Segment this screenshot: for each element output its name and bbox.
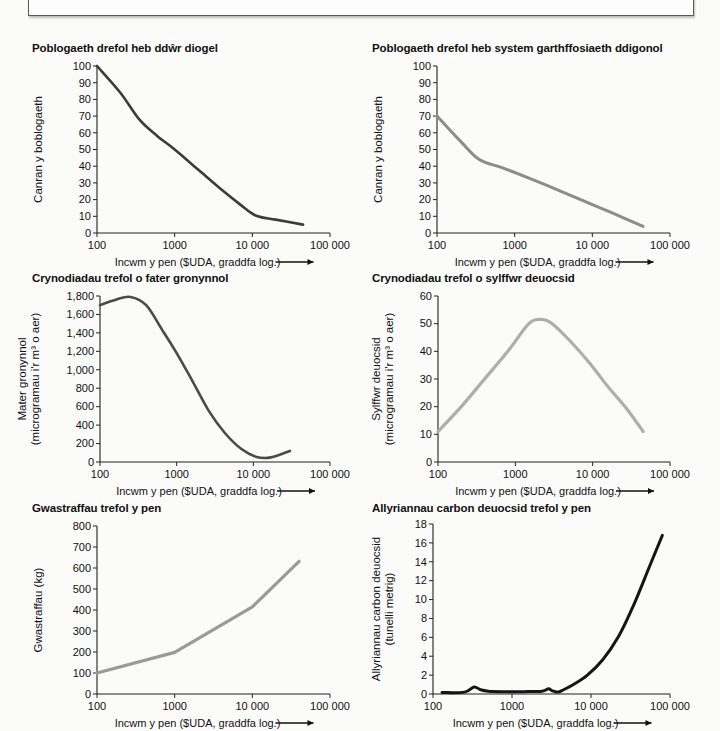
svg-text:10 000: 10 000 [576,239,610,251]
svg-text:Sylffwr deuocsid: Sylffwr deuocsid [370,337,382,421]
chart-1-svg: 0102030405060708090100100100010 000100 0… [0,40,360,271]
svg-text:2: 2 [421,669,427,681]
chart-2-plot: 0102030405060708090100100100010 000100 0… [360,40,720,271]
chart-1-series [97,66,303,225]
svg-text:18: 18 [415,518,427,530]
svg-text:100: 100 [424,700,442,712]
svg-text:70: 70 [79,110,91,122]
svg-text:Allyriannau carbon deuocsid: Allyriannau carbon deuocsid [370,537,382,681]
svg-text:Incwm y pen ($UDA, graddfa log: Incwm y pen ($UDA, graddfa log.) [455,256,621,268]
svg-text:6: 6 [421,631,427,643]
svg-text:100: 100 [91,468,109,480]
svg-text:90: 90 [79,77,91,89]
svg-text:1000: 1000 [500,700,524,712]
svg-text:100: 100 [428,239,446,251]
chart-4-series [438,319,643,431]
panel-chart-1: Poblogaeth drefol heb ddŵr diogel 010203… [0,40,360,270]
svg-text:20: 20 [420,400,432,412]
svg-text:12: 12 [415,574,427,586]
svg-text:100: 100 [73,60,91,72]
svg-text:100 000: 100 000 [650,468,690,480]
chart-5-svg: 0100200300400500600700800100100010 00010… [0,500,360,731]
svg-text:40: 40 [420,345,432,357]
svg-text:Mater gronynnol: Mater gronynnol [16,337,28,420]
panel-chart-5: Gwastraffau trefol y pen 010020030040050… [0,500,360,731]
svg-text:90: 90 [419,77,431,89]
svg-text:Incwm y pen ($UDA, graddfa log: Incwm y pen ($UDA, graddfa log.) [115,717,281,729]
svg-text:Incwm y pen ($UDA, graddfa log: Incwm y pen ($UDA, graddfa log.) [453,717,619,729]
svg-text:600: 600 [76,400,94,412]
chart-1-plot: 0102030405060708090100100100010 000100 0… [0,40,360,271]
svg-text:1,200: 1,200 [66,345,94,357]
svg-text:Canran y boblogaeth: Canran y boblogaeth [372,96,384,203]
svg-text:0: 0 [85,688,91,700]
svg-text:10: 10 [419,210,431,222]
svg-text:800: 800 [73,520,91,532]
svg-text:100: 100 [88,700,106,712]
svg-text:600: 600 [73,562,91,574]
chart-5-series [97,561,299,673]
panel-chart-3: Crynodiadau trefol o fater gronynnol 020… [0,270,360,500]
svg-text:1000: 1000 [162,700,186,712]
svg-text:0: 0 [425,227,431,239]
chart-5-plot: 0100200300400500600700800100100010 00010… [0,500,360,731]
svg-text:0: 0 [421,688,427,700]
svg-text:Gwastraffau (kg): Gwastraffau (kg) [32,567,44,652]
svg-text:1,600: 1,600 [66,308,94,320]
svg-text:50: 50 [419,143,431,155]
svg-text:60: 60 [79,127,91,139]
svg-text:300: 300 [73,625,91,637]
svg-text:400: 400 [73,604,91,616]
svg-text:20: 20 [79,193,91,205]
chart-6-svg: 024681012141618100100010 000100 000Allyr… [360,500,720,731]
svg-text:100: 100 [413,60,431,72]
panel-chart-4: Crynodiadau trefol o sylffwr deuocsid 01… [360,270,720,500]
chart-6-series [442,535,662,692]
svg-text:1000: 1000 [162,239,186,251]
svg-text:40: 40 [79,160,91,172]
svg-text:50: 50 [79,143,91,155]
chart-3-series [100,297,290,458]
chart-3-plot: 02004006008001,0001,2001,4001,6001,80010… [0,270,360,501]
svg-text:70: 70 [419,110,431,122]
svg-text:200: 200 [73,646,91,658]
svg-text:800: 800 [76,382,94,394]
chart-4-plot: 0102030405060100100010 000100 000Sylffwr… [360,270,720,501]
svg-text:10: 10 [79,210,91,222]
chart-2-svg: 0102030405060708090100100100010 000100 0… [360,40,720,271]
svg-text:40: 40 [419,160,431,172]
panel-chart-2: Poblogaeth drefol heb system garthffosia… [360,40,720,270]
svg-text:0: 0 [85,227,91,239]
svg-text:100 000: 100 000 [310,239,350,251]
svg-text:100: 100 [73,667,91,679]
svg-text:200: 200 [76,437,94,449]
svg-text:100 000: 100 000 [310,700,350,712]
svg-text:700: 700 [73,541,91,553]
svg-text:30: 30 [420,373,432,385]
svg-text:80: 80 [419,93,431,105]
charts-grid: Poblogaeth drefol heb ddŵr diogel 010203… [0,40,720,731]
svg-text:1000: 1000 [503,468,527,480]
svg-text:Incwm y pen ($UDA, graddfa log: Incwm y pen ($UDA, graddfa log.) [115,256,281,268]
chart-6-plot: 024681012141618100100010 000100 000Allyr… [360,500,720,731]
svg-text:1,400: 1,400 [66,327,94,339]
svg-text:20: 20 [419,193,431,205]
svg-text:1000: 1000 [502,239,526,251]
svg-text:100: 100 [429,468,447,480]
chart-3-svg: 02004006008001,0001,2001,4001,6001,80010… [0,270,360,501]
svg-text:100 000: 100 000 [310,468,350,480]
svg-text:(microgramau i'r m³ o aer): (microgramau i'r m³ o aer) [383,313,395,446]
svg-text:1000: 1000 [164,468,188,480]
svg-text:4: 4 [421,650,427,662]
svg-text:(microgramau i'r m³ o aer): (microgramau i'r m³ o aer) [29,313,41,446]
svg-text:10 000: 10 000 [236,700,270,712]
svg-text:0: 0 [426,456,432,468]
svg-text:1,800: 1,800 [66,290,94,302]
chart-2-series [437,116,643,226]
svg-text:Incwm y pen ($UDA, graddfa log: Incwm y pen ($UDA, graddfa log.) [116,485,282,497]
top-blank-box [28,0,694,16]
svg-text:100 000: 100 000 [650,700,690,712]
svg-text:10 000: 10 000 [237,468,271,480]
svg-text:14: 14 [415,556,427,568]
svg-text:10: 10 [420,428,432,440]
